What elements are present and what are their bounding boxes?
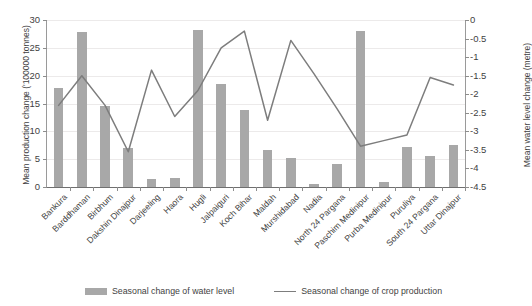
x-axis-category-label: Haora (161, 192, 185, 216)
y-axis-right-tick-mark (465, 57, 469, 58)
legend-label-water-level: Seasonal change of water level (112, 286, 234, 296)
y-axis-right-tick-mark (465, 168, 469, 169)
y-axis-left-tick-label: 25 (14, 43, 40, 53)
line-swatch-icon (274, 291, 296, 292)
y-axis-right-tick-label: -3 (470, 126, 498, 136)
y-axis-left-ticks: 302520151050 (14, 0, 40, 306)
plot-area (46, 20, 466, 188)
y-axis-right-ticks: 0-0.5-1-1.5-2-2.5-3-3.5-4-4.5 (470, 0, 498, 306)
line-series-crop-production (47, 20, 465, 187)
chart-legend: Seasonal change of water level Seasonal … (0, 281, 527, 301)
y-axis-left-tick-mark (43, 20, 47, 21)
y-axis-left-tick-label: 15 (14, 99, 40, 109)
y-axis-left-tick-mark (43, 159, 47, 160)
y-axis-right-tick-label: -1 (470, 52, 498, 62)
y-axis-left-tick-label: 5 (14, 154, 40, 164)
y-axis-right-tick-label: -4 (470, 163, 498, 173)
y-axis-left-tick-mark (43, 104, 47, 105)
y-axis-right-title: Mean water level change (metre) (522, 15, 532, 195)
y-axis-right-tick-label: -3.5 (470, 145, 498, 155)
y-axis-left-tick-label: 10 (14, 126, 40, 136)
x-axis-tick-mark (465, 187, 466, 191)
y-axis-right-tick-mark (465, 150, 469, 151)
legend-item-crop-production: Seasonal change of crop production (274, 286, 442, 296)
y-axis-right-tick-mark (465, 76, 469, 77)
legend-label-crop-production: Seasonal change of crop production (301, 286, 442, 296)
y-axis-left-tick-mark (43, 76, 47, 77)
y-axis-right-tick-mark (465, 94, 469, 95)
y-axis-right-tick-label: -1.5 (470, 71, 498, 81)
y-axis-left-tick-mark (43, 131, 47, 132)
y-axis-right-tick-mark (465, 20, 469, 21)
bar-swatch-icon (85, 288, 107, 295)
y-axis-right-tick-mark (465, 39, 469, 40)
y-axis-right-tick-label: -0.5 (470, 34, 498, 44)
y-axis-left-tick-mark (43, 187, 47, 188)
y-axis-right-tick-label: 0 (470, 15, 498, 25)
y-axis-right-tick-label: -4.5 (470, 182, 498, 192)
crop-production-polyline (59, 31, 454, 152)
y-axis-right-tick-mark (465, 113, 469, 114)
y-axis-left-tick-mark (43, 48, 47, 49)
y-axis-left-tick-label: 20 (14, 71, 40, 81)
x-axis-category-labels: BankuraBarddhamanBirbhumDakshin Dinajpur… (46, 190, 464, 276)
legend-item-water-level: Seasonal change of water level (85, 286, 234, 296)
y-axis-right-tick-label: -2 (470, 89, 498, 99)
y-axis-left-tick-label: 0 (14, 182, 40, 192)
y-axis-right-tick-mark (465, 131, 469, 132)
y-axis-right-tick-label: -2.5 (470, 108, 498, 118)
y-axis-left-tick-label: 30 (14, 15, 40, 25)
